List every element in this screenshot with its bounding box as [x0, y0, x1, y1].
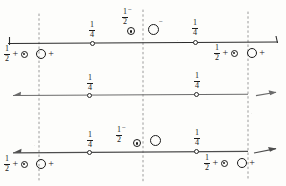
fraction-half: 1 2 [4, 45, 10, 63]
fraction-half: 1 2 [214, 44, 220, 62]
node-top-right[interactable] [193, 40, 198, 45]
fraction-numerator: 1 [87, 131, 93, 139]
label-half-minus-bottom: 1 2 − [116, 126, 126, 144]
circled-dot-bottom-left-of-guide[interactable] [133, 134, 141, 150]
circled-dot-icon[interactable] [21, 51, 28, 58]
fraction-denominator: 4 [87, 84, 93, 92]
fraction-denominator: 2 [116, 136, 122, 144]
fraction-numerator: 1 [87, 74, 93, 82]
fraction-denominator: 2 [214, 54, 220, 62]
fraction-numerator: 1 [89, 21, 95, 29]
plus-icon: + [258, 48, 267, 58]
fraction-denominator: 4 [89, 31, 95, 39]
label-quarter-top-left: 1 4 [89, 21, 95, 39]
arrow-left-icon-middle [13, 92, 21, 96]
fraction-denominator: 2 [4, 165, 10, 173]
circled-dot-icon [127, 27, 135, 35]
open-circle-bottom[interactable] [150, 131, 161, 147]
node-top-left[interactable] [90, 41, 95, 46]
cluster-top-left: 1 2 + + [4, 45, 55, 63]
circled-dot-icon[interactable] [21, 161, 28, 168]
circled-dot-icon [133, 139, 141, 147]
plus-icon: + [47, 159, 56, 169]
fraction-numerator: 1 [4, 45, 10, 53]
circled-dot-icon[interactable] [231, 50, 238, 57]
fraction-numerator: 1 [192, 19, 198, 27]
label-quarter-middle-right: 1 4 [194, 72, 200, 90]
cluster-top-right: 1 2 + + [214, 44, 266, 62]
fraction-denominator: 2 [204, 164, 210, 172]
plus-icon: + [11, 159, 20, 169]
open-circle-minus-top[interactable]: − [148, 20, 163, 36]
label-quarter-top-right: 1 4 [192, 19, 198, 37]
fraction-half: 1 2 [204, 154, 210, 172]
node-middle-right[interactable] [194, 92, 199, 97]
fraction-numerator: 1 [194, 129, 200, 137]
circled-dot-icon[interactable] [221, 160, 228, 167]
label-quarter-bottom-left: 1 4 [87, 131, 93, 149]
fraction-denominator: 4 [192, 29, 198, 37]
superscript-minus: − [159, 19, 163, 26]
superscript-minus: − [122, 125, 126, 132]
plus-icon: + [221, 48, 230, 58]
open-circle-icon [150, 135, 161, 146]
label-quarter-bottom-right: 1 4 [194, 129, 200, 147]
open-circle-icon [148, 24, 159, 35]
fraction-numerator: 1 [214, 44, 220, 52]
fraction-denominator: 4 [194, 139, 200, 147]
open-circle-icon[interactable] [237, 158, 247, 168]
node-bottom-left[interactable] [87, 150, 92, 155]
figure-canvas: 1 4 1 4 1 2 − − 1 2 + [0, 0, 286, 186]
plus-icon: + [248, 158, 257, 168]
arrow-left-icon-bottom [13, 149, 22, 153]
circled-dot-top-left-of-guide[interactable] [127, 22, 135, 38]
node-middle-left[interactable] [87, 93, 92, 98]
line-bottom-axis [13, 151, 248, 152]
fraction-denominator: 2 [4, 55, 10, 63]
arrow-right-icon-bottom [254, 147, 277, 153]
fraction-numerator: 1 [4, 155, 10, 163]
superscript-minus: − [128, 7, 132, 14]
label-quarter-middle-left: 1 4 [87, 74, 93, 92]
fraction-denominator: 4 [87, 141, 93, 149]
fraction-numerator: 1 [204, 154, 210, 162]
line-bottom-group [13, 147, 277, 153]
fraction-denominator: 4 [194, 82, 200, 90]
plus-icon: + [47, 49, 56, 59]
line-middle-axis [13, 94, 248, 95]
cluster-bottom-right: 1 2 + + [204, 154, 256, 172]
plus-icon: + [211, 158, 220, 168]
open-circle-icon[interactable] [36, 49, 46, 59]
fraction-numerator: 1 [194, 72, 200, 80]
line-middle-group [13, 90, 277, 95]
open-circle-icon[interactable] [36, 159, 46, 169]
plus-icon: + [11, 49, 20, 59]
arrow-right-icon-middle [256, 90, 277, 95]
open-circle-icon[interactable] [247, 48, 257, 58]
fraction-half: 1 2 [4, 155, 10, 173]
cluster-bottom-left: 1 2 + + [4, 155, 55, 173]
